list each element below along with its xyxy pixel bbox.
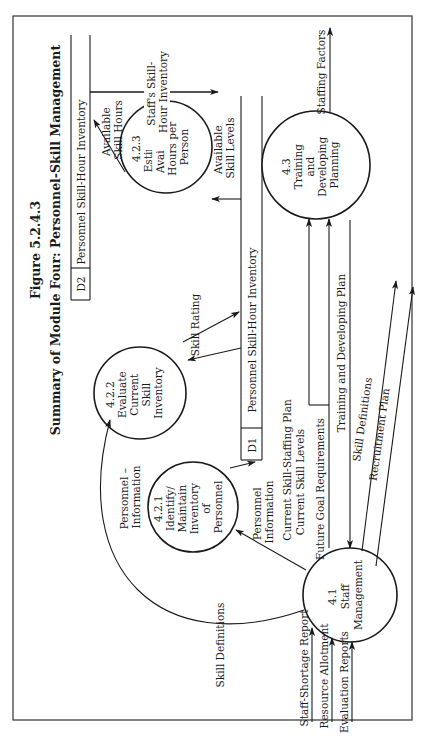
svg-text:Resource Allotment: Resource Allotment xyxy=(318,623,330,729)
flow-evaluation-reports: Evaluation Reports xyxy=(338,631,352,733)
svg-text:Personnel Information: Personnel Information xyxy=(251,480,275,543)
process-4-3: 4.3 Training and Developing Planning xyxy=(262,111,370,219)
svg-text:Current Skill-Staffing Plan: Current Skill-Staffing Plan xyxy=(281,399,293,541)
flow-available-skill-levels: Available Skill Levels xyxy=(212,117,241,199)
flow-skill-definitions-out: Skill Definitions xyxy=(350,281,396,551)
flow-training-and-developing-plan: Training and Developing Plan xyxy=(335,220,350,548)
process-4-2-2: 4.2.2 Evaluate Current Skill Inventory xyxy=(94,347,186,439)
diagram-canvas: Figure 5.2.4.3 Summary of Module Four: P… xyxy=(0,0,443,756)
data-store-d1: D1 Personnel Skill-Hour Inventory xyxy=(241,96,262,460)
process-4-2-1: 4.2.1 Identify/ Maintain Inventory of Pe… xyxy=(148,462,238,552)
flow-staff-shortage-report: Staff-Shortage Report xyxy=(298,609,312,727)
flow-available-skill-hours: Available Skill Hours xyxy=(94,100,125,172)
flow-future-goal-requirements: Future Goal Requirements xyxy=(309,219,329,560)
svg-text:Available Skill Levels: Available Skill Levels xyxy=(212,117,236,178)
d2-id: D2 xyxy=(75,276,87,291)
figure-number: Figure 5.2.4.3 xyxy=(28,201,43,299)
svg-text:Future Goal Requirements: Future Goal Requirements xyxy=(314,418,326,560)
svg-text:Current Skill Levels: Current Skill Levels xyxy=(294,429,306,535)
svg-text:Evaluation Reports: Evaluation Reports xyxy=(338,631,350,733)
flow-current-skill-levels: Current Skill-Staffing Plan Current Skil… xyxy=(281,219,309,541)
data-flow-diagram: Figure 5.2.4.3 Summary of Module Four: P… xyxy=(0,0,443,756)
svg-text:Personnel – Information: Personnel – Information xyxy=(118,465,142,530)
d1-label: Personnel Skill-Hour Inventory xyxy=(246,247,258,412)
data-store-d2: D2 Personnel Skill-Hour Inventory xyxy=(71,35,90,300)
svg-text:Training and Developing Plan: Training and Developing Plan xyxy=(335,274,347,433)
d1-id: D1 xyxy=(246,437,258,452)
svg-text:Staff-Shortage Report: Staff-Shortage Report xyxy=(298,609,310,727)
svg-text:Staffing Factors: Staffing Factors xyxy=(315,30,327,115)
figure-title: Summary of Module Four: Personnel-Skill … xyxy=(48,45,63,436)
flow-skill-rating: Skill Rating xyxy=(183,294,241,360)
flow-staffing-factors: Staffing Factors xyxy=(315,28,330,114)
flow-skill-definitions-curve: Skill Definitions xyxy=(214,603,226,688)
svg-text:Staff's Skill- Hour Inve: Staff's Skill- Hour Inventory xyxy=(145,51,169,133)
d2-label: Personnel Skill-Hour Inventory xyxy=(75,99,87,264)
svg-text:Skill Rating: Skill Rating xyxy=(189,294,201,357)
flow-resource-allotment: Resource Allotment xyxy=(318,623,332,729)
svg-text:Available Skill Hours: Available Skill Hours xyxy=(100,100,124,160)
